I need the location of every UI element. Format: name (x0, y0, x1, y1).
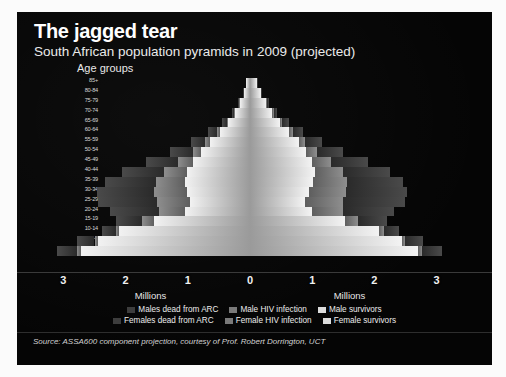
bar-male-hiv (159, 207, 185, 217)
age-group-label: 10-14 (38, 225, 98, 231)
x-axis-tick: 1 (309, 274, 315, 286)
bar-female-dead (422, 246, 443, 256)
legend-row-female: Females dead from ARCFemale HIV infectio… (17, 316, 492, 325)
bar-female-survivors (250, 118, 280, 128)
bar-male-survivors (240, 98, 250, 108)
legend-swatch-icon (323, 318, 331, 324)
age-group-label: 25-29 (38, 196, 98, 202)
age-group-label: 50-54 (38, 146, 98, 152)
bar-female-survivors (250, 236, 402, 246)
age-group-label: 65-69 (38, 117, 98, 123)
x-axis-tick: 0 (247, 274, 253, 286)
bar-male-hiv (227, 118, 228, 128)
age-group-label: 15-19 (38, 215, 98, 221)
bar-male-survivors (98, 236, 250, 246)
bar-female-dead (405, 236, 423, 246)
source-note: Source: ASSA600 component projection, co… (33, 337, 325, 346)
bar-female-survivors (250, 127, 289, 137)
bar-male-survivors (210, 137, 250, 147)
bar-male-hiv (234, 108, 235, 118)
bar-female-survivors (250, 157, 312, 167)
age-group-label: 60-64 (38, 126, 98, 132)
legend-label: Male survivors (329, 305, 382, 314)
bar-male-hiv (156, 177, 185, 187)
bar-female-hiv (312, 207, 343, 217)
pyramid-plot: 85+80-8475-7970-7465-6960-6455-5950-5445… (17, 78, 492, 272)
x-axis-tick: 3 (60, 274, 66, 286)
bar-female-survivors (250, 137, 299, 147)
bar-female-dead (274, 108, 277, 118)
legend-label: Female survivors (334, 316, 396, 325)
x-axis-unit-label: Millions (135, 290, 167, 301)
bar-male-hiv (239, 98, 240, 108)
bar-female-hiv (313, 177, 347, 187)
x-axis-tick: 2 (123, 274, 129, 286)
bar-female-dead (261, 88, 262, 98)
bar-female-survivors (250, 147, 306, 157)
bar-male-hiv (178, 157, 193, 167)
bar-male-dead (122, 167, 164, 177)
bar-female-dead (282, 118, 288, 128)
legend-swatch-icon (229, 307, 237, 313)
bar-female-dead (343, 207, 394, 217)
legend-swatch-icon (113, 318, 121, 324)
bar-female-survivors (250, 98, 266, 108)
age-group-label: 45-49 (38, 156, 98, 162)
bar-male-survivors (201, 147, 250, 157)
x-axis-tick: 3 (434, 274, 440, 286)
chart-legend: Males dead from ARCMale HIV infectionMal… (17, 305, 492, 327)
legend-swatch-icon (318, 307, 326, 313)
bar-male-dead (116, 216, 142, 226)
bar-female-dead (343, 167, 390, 177)
legend-male-survivors: Male survivors (318, 305, 382, 314)
legend-males-dead: Males dead from ARC (127, 305, 218, 314)
bar-female-dead (257, 78, 258, 88)
bar-male-dead (57, 246, 77, 256)
bar-female-dead (305, 137, 322, 147)
bar-male-survivors (235, 108, 250, 118)
bar-male-dead (97, 187, 154, 197)
bar-male-dead (232, 108, 234, 118)
bar-male-hiv (193, 147, 202, 157)
legend-label: Males dead from ARC (138, 305, 218, 314)
bar-female-dead (267, 98, 269, 108)
age-group-label: 30-34 (38, 186, 98, 192)
bar-female-hiv (305, 197, 344, 207)
chart-subtitle: South African population pyramids in 200… (34, 44, 355, 59)
pyramid-row: 0-4 (17, 246, 492, 256)
bar-male-dead (222, 118, 227, 128)
chart-root: The jagged tear South African population… (0, 0, 506, 377)
bar-male-hiv (116, 226, 120, 236)
bar-female-hiv (315, 167, 342, 177)
bar-male-hiv (142, 216, 153, 226)
bar-female-dead (293, 127, 304, 137)
bar-male-survivors (228, 118, 250, 128)
bar-female-dead (347, 177, 403, 187)
bar-male-survivors (190, 197, 250, 207)
bar-male-hiv (205, 137, 210, 147)
x-axis-tick: 1 (185, 274, 191, 286)
age-group-label: 75-79 (38, 97, 98, 103)
legend-row-male: Males dead from ARCMale HIV infectionMal… (17, 305, 492, 314)
bar-male-dead (98, 197, 157, 207)
bar-male-dead (238, 98, 239, 108)
bar-male-survivors (187, 187, 250, 197)
x-axis-tick: 2 (371, 274, 377, 286)
bar-female-hiv (345, 216, 359, 226)
legend-label: Female HIV infection (236, 316, 312, 325)
bar-female-survivors (250, 246, 418, 256)
age-group-label: 40-44 (38, 166, 98, 172)
bar-female-hiv (306, 147, 317, 157)
legend-females-dead: Females dead from ARC (113, 316, 214, 325)
age-group-label: 85+ (38, 77, 98, 83)
bar-female-survivors (250, 226, 379, 236)
bar-female-survivors (250, 167, 315, 177)
bar-female-survivors (250, 108, 272, 118)
legend-label: Male HIV infection (240, 305, 306, 314)
bar-male-dead (170, 147, 192, 157)
bar-male-dead (243, 88, 244, 98)
age-group-label: 80-84 (38, 87, 98, 93)
bar-male-survivors (185, 177, 250, 187)
x-axis-line (17, 272, 492, 273)
source-divider (17, 332, 492, 333)
